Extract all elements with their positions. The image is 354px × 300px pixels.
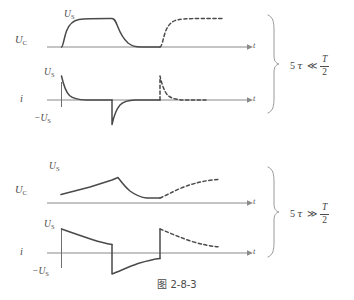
amplitude-label-uc-slow: US	[49, 162, 60, 172]
curve-i-fast-dashed	[160, 76, 206, 100]
brace-fast	[268, 15, 279, 113]
axis-label-i-slow: t	[253, 247, 255, 256]
negative-amplitude-label-i-fast: −US	[34, 114, 51, 124]
signal-label-uc-fast: UC	[15, 35, 27, 46]
curve-i-fast-spike2	[112, 100, 160, 125]
amplitude-label-i-fast: US	[44, 68, 55, 78]
curve-i-fast-spike1	[62, 76, 113, 100]
amplitude-label-uc-fast: US	[64, 10, 75, 20]
axis-label-uc-slow: t	[253, 197, 255, 206]
curve-uc-slow-dashed	[160, 180, 218, 199]
waveform-plot-layer	[0, 0, 354, 300]
figure-container: UC US t i US −US t UC US t i US −US t 5τ…	[0, 0, 354, 300]
plot-i-slow	[47, 228, 253, 274]
signal-label-i-fast: i	[20, 94, 23, 105]
condition-slow: 5τ≫T2	[290, 203, 329, 225]
brace-slow	[268, 167, 279, 257]
curve-uc-fast-solid	[62, 18, 161, 47]
amplitude-label-i-slow: US	[44, 220, 55, 230]
curve-i-slow-seg1	[62, 229, 113, 245]
plot-uc-fast	[47, 18, 253, 49]
axis-label-i-fast: t	[253, 94, 255, 103]
signal-label-uc-slow: UC	[15, 185, 27, 196]
curve-uc-fast-dashed	[160, 18, 222, 47]
condition-fast: 5τ≪T2	[290, 55, 329, 77]
curve-i-slow-seg2	[112, 245, 160, 275]
plot-i-fast	[47, 76, 253, 125]
axis-label-uc-fast: t	[253, 41, 255, 50]
curve-uc-slow-solid	[61, 178, 160, 199]
curve-i-slow-dashed	[160, 229, 218, 247]
figure-caption: 图 2-8-3	[0, 276, 354, 291]
signal-label-i-slow: i	[20, 247, 23, 258]
plot-uc-slow	[47, 178, 253, 206]
